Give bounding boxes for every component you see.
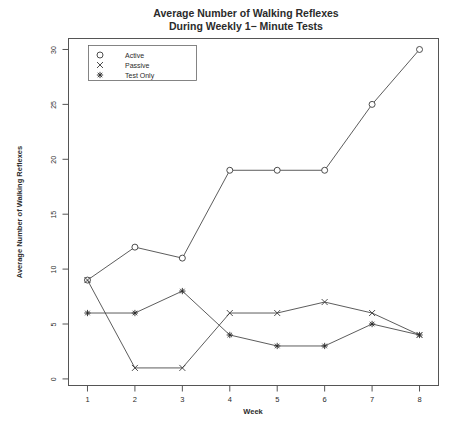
- marker-star: [227, 332, 233, 338]
- y-tick-label: 25: [50, 101, 57, 109]
- x-tick-label: 1: [85, 395, 89, 404]
- marker-star: [84, 310, 90, 316]
- x-tick-label: 7: [370, 395, 374, 404]
- marker-star: [179, 288, 185, 294]
- marker-circle: [132, 244, 138, 250]
- legend-label: Passive: [125, 62, 150, 69]
- legend-label: Active: [125, 52, 144, 59]
- legend-label: Test Only: [125, 72, 155, 80]
- chart-legend: ActivePassiveTest Only: [89, 46, 197, 81]
- y-tick-label: 30: [50, 46, 57, 54]
- x-axis-title: Week: [243, 407, 263, 416]
- marker-circle: [417, 46, 423, 52]
- marker-circle: [274, 167, 280, 173]
- y-tick-label: 5: [50, 322, 57, 326]
- marker-star: [416, 332, 422, 338]
- y-tick-label: 20: [50, 156, 57, 164]
- y-tick-label: 0: [50, 377, 57, 381]
- y-tick-label: 10: [50, 266, 57, 274]
- line-chart: Average Number of Walking Reflexes Durin…: [0, 0, 454, 434]
- marker-circle: [179, 255, 185, 261]
- marker-star: [132, 310, 138, 316]
- x-tick-label: 3: [180, 395, 184, 404]
- x-tick-label: 4: [228, 395, 232, 404]
- x-tick-label: 2: [133, 395, 137, 404]
- marker-circle: [322, 167, 328, 173]
- chart-figure: Average Number of Walking Reflexes Durin…: [0, 0, 454, 434]
- y-axis-title: Average Number of Walking Reflexes: [15, 146, 24, 278]
- marker-star: [274, 343, 280, 349]
- y-tick-label: 15: [50, 211, 57, 219]
- chart-subtitle: During Weekly 1− Minute Tests: [169, 20, 323, 32]
- x-tick-label: 6: [323, 395, 327, 404]
- x-tick-label: 5: [275, 395, 279, 404]
- chart-title: Average Number of Walking Reflexes: [153, 7, 339, 19]
- marker-star: [369, 321, 375, 327]
- marker-star: [322, 343, 328, 349]
- marker-circle: [97, 52, 103, 58]
- marker-star: [97, 72, 103, 78]
- x-tick-label: 8: [417, 395, 421, 404]
- marker-circle: [369, 101, 375, 107]
- marker-circle: [227, 167, 233, 173]
